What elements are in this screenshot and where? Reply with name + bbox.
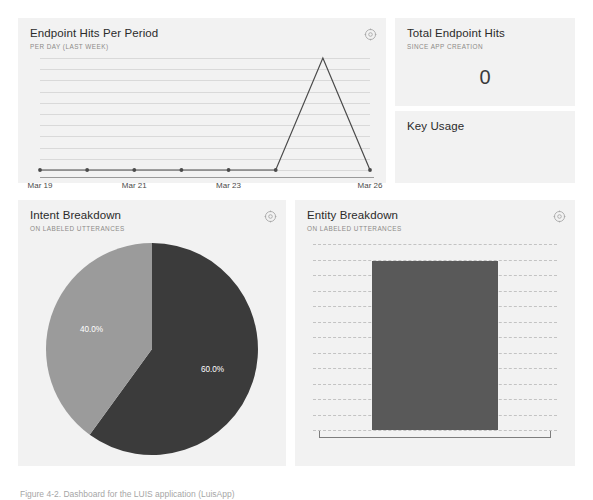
data-point xyxy=(274,168,278,172)
pie-slice-label: 60.0% xyxy=(201,365,224,374)
data-point xyxy=(38,168,42,172)
gear-icon[interactable] xyxy=(364,28,377,41)
entity-breakdown-header: Entity Breakdown ON LABELED UTTERANCES xyxy=(307,209,545,233)
total-endpoint-hits-panel: Total Endpoint Hits SINCE APP CREATION 0 xyxy=(395,18,575,106)
endpoint-hits-header: Endpoint Hits Per Period PER DAY (LAST W… xyxy=(30,27,356,51)
data-point xyxy=(368,168,372,172)
panel-title: Intent Breakdown xyxy=(30,209,256,222)
key-usage-header: Key Usage xyxy=(407,120,545,133)
key-usage-panel: Key Usage xyxy=(395,111,575,183)
x-axis-bracket xyxy=(319,431,551,438)
intent-breakdown-header: Intent Breakdown ON LABELED UTTERANCES xyxy=(30,209,256,233)
intent-pie-chart: 60.0%40.0% xyxy=(36,242,268,456)
entity-breakdown-panel: Entity Breakdown ON LABELED UTTERANCES xyxy=(295,200,575,466)
pie-slice-label: 40.0% xyxy=(80,325,103,334)
data-point xyxy=(180,168,184,172)
gridline xyxy=(313,244,557,245)
intent-breakdown-panel: Intent Breakdown ON LABELED UTTERANCES 6… xyxy=(18,200,286,466)
gear-icon[interactable] xyxy=(264,210,277,223)
pie-svg: 60.0%40.0% xyxy=(36,242,268,456)
figure-caption: Figure 4-2. Dashboard for the LUIS appli… xyxy=(20,489,235,500)
x-axis-line xyxy=(40,177,374,178)
endpoint-hits-series xyxy=(40,58,370,170)
total-hits-header: Total Endpoint Hits SINCE APP CREATION xyxy=(407,27,545,51)
x-axis-tick-label: Mar 19 xyxy=(28,181,53,190)
panel-title: Endpoint Hits Per Period xyxy=(30,27,356,40)
data-point xyxy=(132,168,136,172)
data-point xyxy=(227,168,231,172)
panel-title: Key Usage xyxy=(407,120,545,133)
x-axis-tick-label: Mar 23 xyxy=(216,181,241,190)
data-point xyxy=(85,168,89,172)
panel-title: Entity Breakdown xyxy=(307,209,545,222)
panel-subtitle: ON LABELED UTTERANCES xyxy=(30,224,256,233)
panel-title: Total Endpoint Hits xyxy=(407,27,545,40)
endpoint-hits-panel: Endpoint Hits Per Period PER DAY (LAST W… xyxy=(18,18,386,183)
bar[interactable] xyxy=(372,261,499,430)
panel-subtitle: SINCE APP CREATION xyxy=(407,42,545,51)
line-series-path xyxy=(40,58,370,170)
panel-subtitle: PER DAY (LAST WEEK) xyxy=(30,42,356,51)
panel-subtitle: ON LABELED UTTERANCES xyxy=(307,224,545,233)
endpoint-hits-plot xyxy=(40,58,370,170)
x-axis-tick-label: Mar 21 xyxy=(122,181,147,190)
total-hits-value: 0 xyxy=(395,66,575,89)
x-axis-tick-label: Mar 26 xyxy=(358,181,383,190)
entity-bar-chart xyxy=(313,244,557,440)
gear-icon[interactable] xyxy=(553,210,566,223)
x-axis-labels: Mar 19Mar 21Mar 23Mar 26 xyxy=(36,181,376,193)
